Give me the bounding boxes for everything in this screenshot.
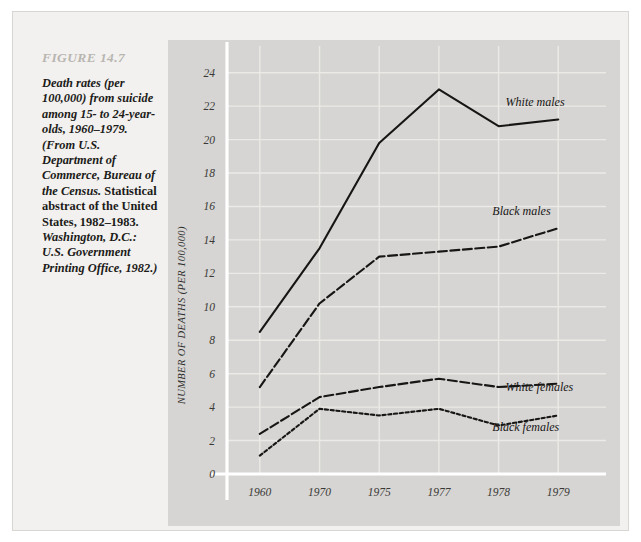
y-axis-tick-label: 16	[204, 200, 216, 212]
y-axis-tick-label: 6	[209, 368, 215, 380]
y-axis-tick-label: 14	[204, 234, 216, 246]
x-axis-tick-label: 1960	[248, 486, 271, 498]
y-axis-tick-label: 24	[204, 67, 216, 79]
y-axis-tick-label: 8	[209, 334, 215, 346]
figure-frame: FIGURE 14.7 Death rates (per 100,000) fr…	[12, 11, 629, 531]
series-label-black-males: Black males	[492, 204, 551, 218]
y-axis-tick-label: 4	[209, 401, 215, 413]
x-axis-tick-label: 1970	[308, 486, 331, 498]
figure-caption-text: Death rates (per 100,000) from suicide a…	[42, 76, 160, 276]
y-axis-tick-label: 0	[209, 468, 215, 480]
series-label-white-females: White females	[506, 380, 574, 394]
caption-segment-3: Washington, D.C.: U.S. Government Printi…	[42, 230, 157, 275]
figure-number-label: FIGURE 14.7	[42, 50, 160, 66]
y-axis-tick-label: 22	[204, 100, 216, 112]
y-axis-tick-label: 10	[204, 301, 216, 313]
x-axis-tick-label: 1978	[487, 486, 510, 498]
series-line-black-males	[260, 228, 558, 387]
y-axis-tick-label: 20	[204, 134, 216, 146]
caption-segment-1: Death rates (per 100,000) from suicide a…	[42, 76, 155, 198]
y-axis-title: NUMBER OF DEATHS (PER 100,000)	[176, 226, 188, 405]
x-axis-tick-label: 1975	[368, 486, 391, 498]
series-label-black-females: Black females	[492, 420, 559, 434]
figure-page: FIGURE 14.7 Death rates (per 100,000) fr…	[0, 0, 641, 542]
x-axis-tick-label: 1979	[547, 486, 570, 498]
figure-caption-block: FIGURE 14.7 Death rates (per 100,000) fr…	[42, 50, 160, 276]
series-label-white-males: White males	[506, 95, 565, 109]
y-axis-tick-label: 12	[204, 267, 216, 279]
y-axis-tick-label: 18	[204, 167, 216, 179]
x-axis-tick-label: 1977	[427, 486, 451, 498]
y-axis-tick-label: 2	[209, 435, 215, 447]
chart-plot-area: 0246810121416182022241960197019751977197…	[168, 40, 620, 526]
line-chart: 0246810121416182022241960197019751977197…	[168, 40, 620, 526]
